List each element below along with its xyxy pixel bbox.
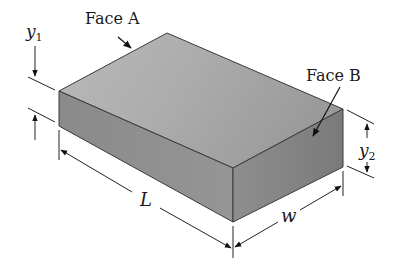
y2-label: y2	[358, 140, 376, 163]
width-label: w	[281, 205, 297, 226]
length-label: L	[139, 189, 152, 210]
face-a-label: Face A	[85, 9, 140, 28]
y1-label: y1	[25, 21, 43, 44]
y1-dimension	[28, 46, 55, 140]
face-b-label: Face B	[306, 66, 361, 85]
block-diagram: y1 Face A Face B y2 L w	[0, 0, 395, 264]
block	[59, 33, 343, 222]
face-a-arrow	[118, 37, 131, 48]
